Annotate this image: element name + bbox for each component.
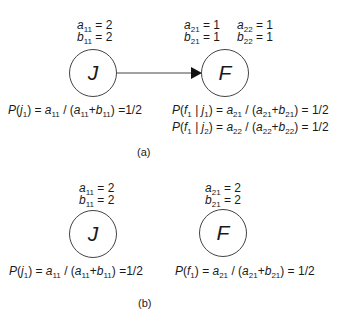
caption-b: (b)	[138, 297, 151, 309]
prob-f1-b: P(f1) = a21 / (a21+b21) = 1/2	[175, 265, 315, 278]
prob-j1: P(j1) = a11 / (a11+b11) =1/2	[8, 104, 142, 117]
node-f: F	[201, 49, 249, 97]
prob-f1-given-j1: P(f1 | j1) = a21 / (a21+b21) = 1/2	[172, 104, 329, 117]
node-f-b: F	[199, 209, 247, 257]
param-b11-b: b11 = 2	[79, 194, 114, 207]
prob-f1-given-j2: P(f1 | j2) = a22 / (a22+b22) = 1/2	[172, 121, 329, 134]
caption-a: (a)	[137, 146, 150, 158]
node-j: J	[69, 49, 117, 97]
param-b21-b: b21 = 2	[205, 194, 241, 207]
prob-j1-b: P(j1) = a11 / (a11+b11) =1/2	[9, 265, 143, 278]
node-j-b: J	[69, 210, 117, 258]
